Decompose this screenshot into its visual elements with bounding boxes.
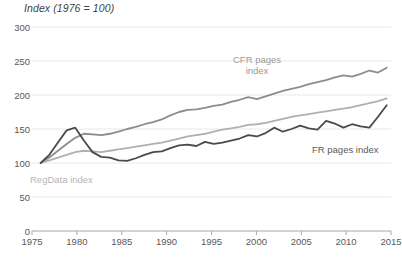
x-tick-label: 2000 — [246, 237, 267, 247]
x-tick-label: 2015 — [380, 237, 401, 247]
x-tick-label: 1990 — [156, 237, 177, 247]
x-tick-label: 1975 — [21, 237, 42, 247]
annotation-cfr-pages-index: CFR pages index — [222, 54, 292, 76]
x-tick-label: 2005 — [291, 237, 312, 247]
x-tick-label: 1995 — [201, 237, 222, 247]
gridlines — [32, 27, 391, 197]
x-axis-line — [32, 231, 391, 235]
x-tick-label: 1980 — [66, 237, 87, 247]
x-tick-label: 2010 — [336, 237, 357, 247]
annotation-regdata-index: RegData index — [30, 174, 120, 185]
x-tick-label: 1985 — [111, 237, 132, 247]
annotation-fr-pages-index: FR pages index — [312, 144, 392, 155]
